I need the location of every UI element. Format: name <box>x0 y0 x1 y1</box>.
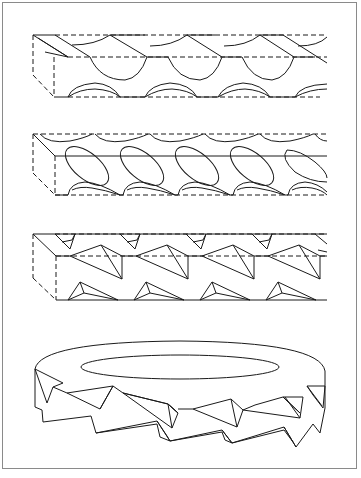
panel-4-serrated-ring <box>35 341 325 447</box>
figure-drawing <box>0 0 361 478</box>
panel-3-triangle-bar <box>33 234 327 300</box>
panel-1-scallop-bar <box>33 35 327 97</box>
panel-2-ellipse-bar <box>33 134 327 195</box>
